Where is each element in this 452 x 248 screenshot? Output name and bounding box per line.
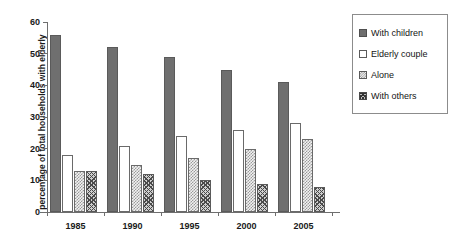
y-axis-tick-mark [43,180,47,181]
x-axis-tick-label: 1990 [122,221,142,231]
x-axis-tick-label: 2000 [236,221,256,231]
legend-item-with-others[interactable]: With others [359,85,442,106]
bar-1995-with-others [200,180,211,212]
legend-item-label: With children [371,28,423,38]
y-axis-tick-label: 0 [35,207,43,217]
bar-2000-with-children [221,70,232,213]
legend: With childrenElderly coupleAloneWith oth… [352,14,448,114]
y-axis-tick: 10 [30,175,47,185]
bar-1990-with-children [107,47,118,212]
y-axis-tick: 40 [30,80,47,90]
legend-swatch-icon [359,29,367,37]
bar-2005-with-children [278,82,289,212]
bar-1985-with-children [50,35,61,212]
bar-1995-elderly-couple [176,136,187,212]
y-axis-tick-label: 40 [30,80,43,90]
legend-item-label: Alone [371,70,394,80]
y-axis-tick-mark [43,22,47,23]
x-axis-tick-mark [161,212,162,216]
bar-2005-with-others [314,187,325,212]
bar-2000-with-others [257,184,268,213]
bar-1985-with-others [86,171,97,212]
bar-2005-elderly-couple [290,123,301,212]
y-axis-tick: 50 [30,49,47,59]
plot-area: 0102030405060 [47,22,332,212]
bar-1990-with-others [143,174,154,212]
legend-item-elderly-couple[interactable]: Elderly couple [359,43,442,64]
legend-item-with-children[interactable]: With children [359,22,442,43]
x-axis-line [40,212,340,213]
y-axis-tick-label: 60 [30,17,43,27]
y-axis-tick: 0 [35,207,47,217]
x-axis-tick-mark [218,212,219,216]
bar-1990-alone [131,165,142,213]
bar-2005-alone [302,139,313,212]
legend-swatch-icon [359,92,367,100]
x-axis-tick-label: 1985 [65,221,85,231]
x-axis-tick-mark [332,212,333,216]
legend-item-label: With others [371,91,417,101]
legend-item-label: Elderly couple [371,49,428,59]
bar-2000-elderly-couple [233,130,244,212]
x-axis-tick-mark [104,212,105,216]
y-axis-tick-label: 30 [30,112,43,122]
y-axis-tick-mark [43,148,47,149]
y-axis-tick: 30 [30,112,47,122]
bar-2000-alone [245,149,256,212]
y-axis-tick: 20 [30,144,47,154]
x-axis-tick-mark [47,212,48,216]
legend-swatch-icon [359,50,367,58]
legend-swatch-icon [359,71,367,79]
bar-1995-with-children [164,57,175,212]
bar-1995-alone [188,158,199,212]
bar-1985-alone [74,171,85,212]
bar-1985-elderly-couple [62,155,73,212]
y-axis-tick-label: 50 [30,49,43,59]
y-axis-tick: 60 [30,17,47,27]
y-axis-tick-mark [43,85,47,86]
bar-chart-figure: percentage of total households with elde… [0,0,452,248]
y-axis-tick-mark [43,53,47,54]
y-axis-tick-label: 20 [30,144,43,154]
x-axis-tick-label: 1995 [179,221,199,231]
legend-item-alone[interactable]: Alone [359,64,442,85]
x-axis-tick-label: 2005 [293,221,313,231]
y-axis-tick-mark [43,117,47,118]
bar-1990-elderly-couple [119,146,130,213]
x-axis-tick-mark [275,212,276,216]
y-axis-tick-label: 10 [30,175,43,185]
